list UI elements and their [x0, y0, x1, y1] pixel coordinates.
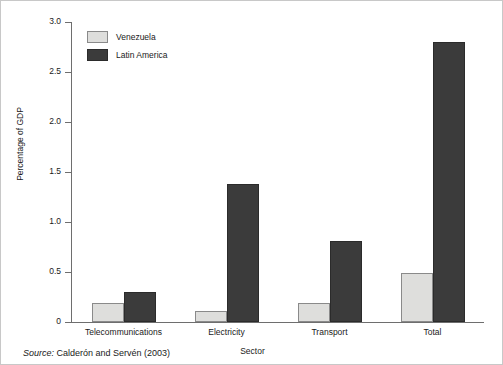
y-axis-tick-label: 0 — [17, 317, 61, 326]
legend-label: Latin America — [116, 50, 168, 60]
bar-transport-venezuela — [298, 303, 330, 322]
bar-telecommunications-latin-america — [124, 292, 156, 322]
legend-swatch-icon — [87, 49, 108, 61]
legend-swatch-icon — [87, 31, 108, 43]
y-axis-tick — [65, 122, 71, 123]
legend-item: Venezuela — [87, 29, 168, 45]
y-axis-tick — [65, 322, 71, 323]
chart-legend: VenezuelaLatin America — [87, 29, 168, 65]
source-caption: Source: Calderón and Servén (2003) — [23, 348, 170, 358]
x-axis-category-label: Total — [424, 327, 442, 337]
y-axis-tick — [65, 72, 71, 73]
y-axis-tick-label: 3.0 — [17, 17, 61, 26]
source-prefix: Source: — [23, 348, 54, 358]
bar-total-venezuela — [401, 273, 433, 322]
legend-item: Latin America — [87, 47, 168, 63]
plot-area — [72, 22, 484, 322]
bar-total-latin-america — [433, 42, 465, 322]
bar-electricity-venezuela — [195, 311, 227, 322]
y-axis-tick — [65, 222, 71, 223]
bar-electricity-latin-america — [227, 184, 259, 322]
x-axis-line — [71, 322, 484, 323]
x-axis-category-label: Electricity — [208, 327, 244, 337]
y-axis-tick-label: 0.5 — [17, 267, 61, 276]
source-text: Calderón and Servén (2003) — [57, 348, 171, 358]
y-axis-title: Percentage of GDP — [15, 74, 25, 214]
x-axis-category-label: Telecommunications — [85, 327, 162, 337]
y-axis-tick — [65, 172, 71, 173]
y-axis-tick-label: 1.0 — [17, 217, 61, 226]
legend-label: Venezuela — [116, 32, 156, 42]
chart-figure: 00.51.01.52.02.53.0 Percentage of GDP Te… — [0, 0, 503, 365]
y-axis-tick — [65, 272, 71, 273]
y-axis-tick — [65, 22, 71, 23]
x-axis-category-label: Transport — [311, 327, 347, 337]
bar-transport-latin-america — [330, 241, 362, 322]
bar-telecommunications-venezuela — [92, 303, 124, 322]
